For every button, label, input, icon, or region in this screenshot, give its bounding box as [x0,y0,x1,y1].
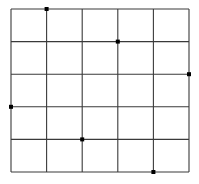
grid-point [116,40,120,44]
grid-point [45,7,49,11]
grid-points [9,7,191,174]
grid-point [9,105,13,109]
grid-diagram [0,0,199,184]
grid-point [80,137,84,141]
grid-point [151,170,155,174]
grid-point [187,72,191,76]
grid-lines [11,9,189,172]
